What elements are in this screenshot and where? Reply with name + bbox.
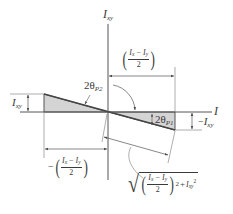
angle-p2-leader [85, 95, 90, 104]
angle-p1-label: 2θP1 [155, 114, 174, 127]
vertical-axis-label: Ixy [103, 8, 113, 22]
hyp-dim-line [104, 137, 168, 155]
angle-p2-label: 2θP2 [84, 80, 103, 93]
hypotenuse-label: √ ( Ix − Iy 2 ) 2 + Ixy2 [128, 172, 198, 195]
left-height-label: Ixy [12, 97, 22, 110]
horizontal-axis-label: I [214, 105, 218, 117]
hyp-ext-right [168, 131, 175, 163]
angle-p2-arc [113, 85, 135, 110]
right-height-label: −Ixy [198, 116, 214, 129]
top-dim-label: ( Ix − Iy 2 ) [121, 48, 156, 70]
bottom-dim-label: − ( Ix − Iy 2 ) [48, 156, 89, 178]
